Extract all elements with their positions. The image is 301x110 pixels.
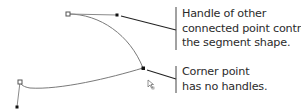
left-handle-line (17, 82, 20, 107)
direct-selection-cursor-icon (148, 80, 154, 89)
bezier-diagram: Handle of other connected point controls… (0, 0, 301, 110)
left-anchor-point (18, 80, 22, 84)
curve-segment-bottom (20, 68, 143, 88)
top-handle-end-point (116, 14, 119, 17)
top-anchor-point (66, 12, 70, 16)
callout-line: connected point controls (182, 22, 301, 37)
callout-line: Corner point (182, 65, 267, 80)
corner-point (142, 67, 146, 71)
leader-line-corner (147, 70, 176, 79)
corner-callout: Corner point has no handles. (182, 65, 267, 94)
leader-line-handle (121, 16, 176, 30)
left-handle-end-point (16, 106, 19, 109)
top-handle-line (68, 14, 117, 15)
callout-line: Handle of other (182, 7, 301, 22)
curve-segment-top (68, 14, 143, 68)
callout-line: the segment shape. (182, 36, 301, 51)
handle-callout: Handle of other connected point controls… (182, 7, 301, 51)
callout-line: has no handles. (182, 80, 267, 95)
